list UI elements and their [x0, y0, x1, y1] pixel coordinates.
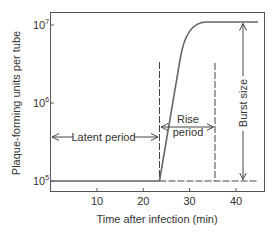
x-tick-labels: 10 20 30 40 — [91, 195, 242, 207]
rise-period-label-line2: period — [173, 126, 204, 138]
x-tick-30: 30 — [183, 195, 195, 207]
x-tick-10: 10 — [91, 195, 103, 207]
y-tick-1e6: 106 — [33, 96, 49, 109]
rise-period-label-line1: Rise — [177, 113, 199, 125]
x-tick-40: 40 — [230, 195, 242, 207]
x-tick-20: 20 — [137, 195, 149, 207]
one-step-growth-chart: 105 106 107 10 20 30 40 Time after infec… — [0, 0, 278, 237]
plot-frame — [51, 13, 265, 192]
x-axis — [97, 188, 236, 192]
y-tick-1e5: 105 — [33, 174, 49, 187]
burst-size-label: Burst size — [237, 79, 249, 127]
growth-curve — [51, 22, 259, 181]
y-tick-1e7: 107 — [33, 18, 49, 31]
y-axis — [51, 25, 55, 181]
y-axis-title: Plaque-forming units per tube — [10, 31, 22, 175]
x-axis-title: Time after infection (min) — [96, 213, 217, 225]
y-tick-labels: 105 106 107 — [33, 18, 49, 187]
latent-period-label: Latent period — [71, 131, 135, 143]
